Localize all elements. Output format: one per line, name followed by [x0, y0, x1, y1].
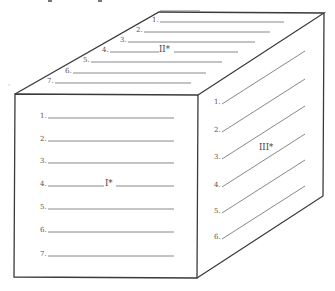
row-number: 2.	[40, 135, 47, 143]
row-number: 3.	[120, 36, 127, 44]
right-face-label: III*	[259, 142, 274, 152]
row-number: 3.	[214, 153, 221, 161]
right-row-1: 1.	[214, 51, 305, 106]
row-number: 7.	[40, 250, 47, 258]
front-row-6: 6.	[40, 226, 174, 234]
row-number: 7.	[47, 77, 54, 85]
row-number: 6.	[214, 233, 221, 241]
front-row-3: 3.	[40, 157, 174, 165]
top-row-2: 2.	[136, 26, 270, 34]
row-number: 4.	[40, 180, 47, 188]
front-face: 1. 2. 3. 4. I* 5. 6. 7.	[40, 112, 174, 258]
row-number: 6.	[40, 226, 47, 234]
front-row-5: 5.	[40, 203, 174, 211]
row-number: 1.	[214, 98, 221, 106]
top-row-5: 5.	[83, 56, 222, 64]
right-row-2: 2.	[214, 79, 305, 134]
row-number: 6.	[65, 67, 72, 75]
right-face: 1. 2. 3. III* 4. 5. 6.	[214, 51, 305, 241]
front-face-label: I*	[105, 178, 113, 188]
front-row-4: 4. I*	[40, 178, 174, 188]
row-number: 2.	[136, 26, 143, 34]
row-number: 3.	[40, 157, 47, 165]
row-number: 4.	[102, 46, 109, 54]
row-number: 2.	[214, 126, 221, 134]
top-row-7: 7.	[47, 77, 191, 85]
row-number: 4.	[214, 181, 221, 189]
right-row-5: 5.	[214, 160, 305, 215]
row-number: 5.	[40, 203, 47, 211]
front-row-1: 1.	[40, 112, 174, 120]
top-row-6: 6.	[65, 67, 206, 75]
right-row-6: 6.	[214, 186, 305, 241]
right-row-3: 3.	[214, 106, 305, 161]
front-row-7: 7.	[40, 250, 174, 258]
top-row-4: 4. II*	[102, 44, 238, 54]
row-number: 1.	[40, 112, 47, 120]
front-row-2: 2.	[40, 135, 174, 143]
top-row-1: 1.	[152, 16, 284, 24]
row-number: 5.	[83, 56, 90, 64]
clipped-header-fragment	[48, 0, 200, 11]
row-number: 5.	[214, 207, 221, 215]
top-face-label: II*	[159, 44, 171, 54]
cube-diagram: 1. 2. 3. 4. II* 5. 6. 7.	[0, 0, 335, 291]
top-face: 1. 2. 3. 4. II* 5. 6. 7.	[47, 16, 284, 85]
top-row-3: 3.	[120, 36, 255, 44]
stray-dot	[8, 84, 9, 85]
row-number: 1.	[152, 16, 159, 24]
